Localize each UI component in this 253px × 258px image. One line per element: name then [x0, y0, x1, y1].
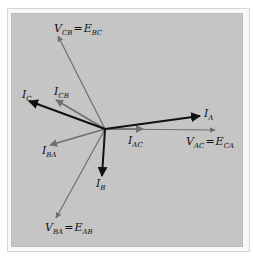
label-i-c: IC	[21, 88, 32, 103]
label-i-ba: IBA	[41, 144, 57, 159]
svg-text:ICB: ICB	[53, 85, 69, 100]
phasor-i-ba	[50, 129, 105, 145]
phasor-v-ba	[56, 129, 105, 218]
svg-text:IA: IA	[203, 107, 213, 122]
svg-text:IBA: IBA	[41, 144, 57, 159]
label-i-cb: ICB	[53, 85, 69, 100]
label-v-cb: VCB=EBC	[54, 22, 103, 37]
label-v-ba: VBA=EAB	[45, 221, 93, 236]
svg-text:VCB=EBC: VCB=EBC	[54, 22, 103, 37]
phasor-diagram: VCB=EBC IC ICB IA IAC VAC=ECA IBA IB VBA…	[0, 0, 253, 258]
label-i-ac: IAC	[127, 134, 143, 149]
svg-text:VAC=ECA: VAC=ECA	[186, 135, 234, 150]
svg-text:IC: IC	[21, 88, 32, 103]
svg-text:VBA=EAB: VBA=EAB	[45, 221, 93, 236]
label-v-ac: VAC=ECA	[186, 135, 234, 150]
label-i-b: IB	[95, 177, 106, 192]
svg-text:IAC: IAC	[127, 134, 143, 149]
svg-text:IB: IB	[95, 177, 106, 192]
label-i-a: IA	[203, 107, 213, 122]
phasor-i-a	[105, 116, 200, 129]
phasor-i-b	[102, 129, 105, 176]
